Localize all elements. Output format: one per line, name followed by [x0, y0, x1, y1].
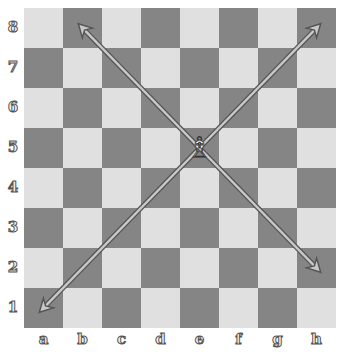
square-h3[interactable]	[297, 208, 336, 248]
file-label: g	[258, 330, 297, 348]
square-b7[interactable]	[63, 48, 102, 88]
rank-label: 5	[4, 138, 22, 156]
rank-label: 1	[4, 298, 22, 316]
square-f7[interactable]	[219, 48, 258, 88]
square-c7[interactable]	[102, 48, 141, 88]
chess-board	[24, 8, 336, 328]
square-d6[interactable]	[141, 88, 180, 128]
square-f5[interactable]	[219, 128, 258, 168]
file-label: f	[219, 330, 258, 348]
square-c6[interactable]	[102, 88, 141, 128]
square-e6[interactable]	[180, 88, 219, 128]
square-d5[interactable]	[141, 128, 180, 168]
square-h2[interactable]	[297, 248, 336, 288]
square-g2[interactable]	[258, 248, 297, 288]
file-label: a	[24, 330, 63, 348]
square-e4[interactable]	[180, 168, 219, 208]
square-e5[interactable]	[180, 128, 219, 168]
file-label: c	[102, 330, 141, 348]
square-f3[interactable]	[219, 208, 258, 248]
square-a2[interactable]	[24, 248, 63, 288]
rank-label: 6	[4, 98, 22, 116]
square-b4[interactable]	[63, 168, 102, 208]
square-c4[interactable]	[102, 168, 141, 208]
square-e7[interactable]	[180, 48, 219, 88]
square-b6[interactable]	[63, 88, 102, 128]
square-d8[interactable]	[141, 8, 180, 48]
square-g7[interactable]	[258, 48, 297, 88]
square-f8[interactable]	[219, 8, 258, 48]
square-h5[interactable]	[297, 128, 336, 168]
square-g6[interactable]	[258, 88, 297, 128]
square-c2[interactable]	[102, 248, 141, 288]
square-a4[interactable]	[24, 168, 63, 208]
square-h8[interactable]	[297, 8, 336, 48]
square-e3[interactable]	[180, 208, 219, 248]
square-d7[interactable]	[141, 48, 180, 88]
square-a5[interactable]	[24, 128, 63, 168]
square-d4[interactable]	[141, 168, 180, 208]
square-f4[interactable]	[219, 168, 258, 208]
square-b2[interactable]	[63, 248, 102, 288]
square-c1[interactable]	[102, 288, 141, 328]
square-b3[interactable]	[63, 208, 102, 248]
square-a8[interactable]	[24, 8, 63, 48]
square-c5[interactable]	[102, 128, 141, 168]
file-label: b	[63, 330, 102, 348]
square-f6[interactable]	[219, 88, 258, 128]
rank-label: 4	[4, 178, 22, 196]
square-h7[interactable]	[297, 48, 336, 88]
square-a1[interactable]	[24, 288, 63, 328]
square-g5[interactable]	[258, 128, 297, 168]
square-g8[interactable]	[258, 8, 297, 48]
file-label: d	[141, 330, 180, 348]
square-e8[interactable]	[180, 8, 219, 48]
square-h4[interactable]	[297, 168, 336, 208]
square-e2[interactable]	[180, 248, 219, 288]
rank-label: 8	[4, 18, 22, 36]
square-b5[interactable]	[63, 128, 102, 168]
rank-label: 3	[4, 218, 22, 236]
square-c3[interactable]	[102, 208, 141, 248]
square-h1[interactable]	[297, 288, 336, 328]
square-g3[interactable]	[258, 208, 297, 248]
square-a7[interactable]	[24, 48, 63, 88]
file-label: h	[297, 330, 336, 348]
rank-label: 2	[4, 258, 22, 276]
square-c8[interactable]	[102, 8, 141, 48]
square-a6[interactable]	[24, 88, 63, 128]
square-d3[interactable]	[141, 208, 180, 248]
square-b1[interactable]	[63, 288, 102, 328]
square-g4[interactable]	[258, 168, 297, 208]
file-label: e	[180, 330, 219, 348]
square-f1[interactable]	[219, 288, 258, 328]
square-d2[interactable]	[141, 248, 180, 288]
square-d1[interactable]	[141, 288, 180, 328]
square-h6[interactable]	[297, 88, 336, 128]
rank-label: 7	[4, 58, 22, 76]
square-b8[interactable]	[63, 8, 102, 48]
square-a3[interactable]	[24, 208, 63, 248]
square-f2[interactable]	[219, 248, 258, 288]
square-e1[interactable]	[180, 288, 219, 328]
square-g1[interactable]	[258, 288, 297, 328]
